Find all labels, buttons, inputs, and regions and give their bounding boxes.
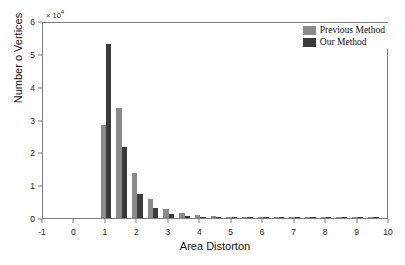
bar	[279, 217, 284, 218]
chart-figure: × 104 0123456 Number o Vertices -1012345…	[0, 0, 405, 265]
x-tick-label: 4	[197, 227, 202, 237]
bar	[137, 194, 142, 218]
bar	[169, 214, 174, 218]
legend-label: Previous Method	[320, 25, 385, 35]
x-tick-mark	[325, 219, 326, 223]
bar	[310, 217, 315, 218]
x-tick-mark	[293, 219, 294, 223]
bar	[185, 216, 190, 218]
y-tick-label: 5	[30, 50, 35, 60]
x-tick-label: 3	[165, 227, 170, 237]
bar	[216, 217, 221, 218]
bar	[295, 217, 300, 218]
x-axis-title: Area Distorton	[42, 240, 388, 252]
y-tick-label: 6	[30, 17, 35, 27]
x-tick-label: 0	[71, 227, 76, 237]
bar	[326, 217, 331, 218]
x-axis: -1012345678910	[42, 219, 388, 241]
x-tick-label: 6	[260, 227, 265, 237]
x-tick-mark	[136, 219, 137, 223]
x-tick-label: 9	[354, 227, 359, 237]
bar	[373, 217, 378, 218]
legend-item: Our Method	[303, 37, 385, 47]
bar	[247, 217, 252, 218]
y-axis-multiplier-exponent: 4	[61, 9, 64, 15]
bar	[263, 217, 268, 218]
x-tick-label: 1	[103, 227, 108, 237]
bar	[232, 217, 237, 218]
chart-legend: Previous MethodOur Method	[301, 23, 388, 49]
x-tick-label: 2	[134, 227, 139, 237]
x-tick-mark	[104, 219, 105, 223]
x-tick-mark	[230, 219, 231, 223]
y-tick-label: 2	[30, 148, 35, 158]
bar	[342, 217, 347, 218]
legend-swatch-icon	[303, 38, 316, 47]
y-axis-multiplier-base: × 10	[46, 11, 61, 20]
bar	[200, 217, 205, 218]
x-tick-label: 7	[291, 227, 296, 237]
y-axis-title: Number o Vertices	[12, 0, 24, 138]
x-tick-mark	[388, 219, 389, 223]
bar	[358, 217, 363, 218]
y-tick-label: 3	[30, 116, 35, 126]
y-tick-label: 1	[30, 181, 35, 191]
x-tick-label: 10	[383, 227, 392, 237]
bars-layer	[43, 23, 387, 218]
bar	[106, 44, 111, 218]
y-tick-label: 4	[30, 83, 35, 93]
x-tick-mark	[167, 219, 168, 223]
x-tick-mark	[262, 219, 263, 223]
y-tick-label: 0	[30, 214, 35, 224]
bar	[153, 208, 158, 218]
x-tick-label: -1	[38, 227, 46, 237]
legend-label: Our Method	[320, 37, 367, 47]
y-axis-multiplier: × 104	[46, 9, 64, 20]
x-tick-label: 8	[323, 227, 328, 237]
legend-swatch-icon	[303, 26, 316, 35]
x-tick-mark	[199, 219, 200, 223]
x-tick-label: 5	[228, 227, 233, 237]
x-tick-mark	[356, 219, 357, 223]
x-tick-mark	[73, 219, 74, 223]
x-tick-mark	[42, 219, 43, 223]
plot-area	[42, 22, 388, 219]
bar	[122, 147, 127, 218]
legend-item: Previous Method	[303, 25, 385, 35]
